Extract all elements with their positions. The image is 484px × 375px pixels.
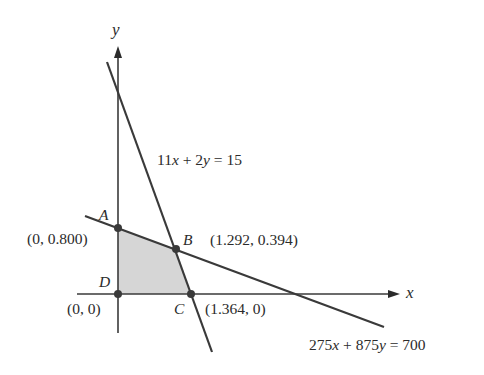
x-axis-arrow-icon (388, 290, 400, 298)
op: + (339, 336, 356, 353)
coef-a: 275 (309, 336, 332, 353)
coef-b: 875 (356, 336, 379, 353)
vertex-b-point (172, 245, 180, 253)
vertex-c-coords: (1.364, 0) (205, 301, 266, 317)
vertex-c-label: C (174, 301, 184, 317)
var-x: x (172, 151, 179, 168)
coef-a: 11 (157, 151, 172, 168)
vertex-b-coords: (1.292, 0.394) (210, 232, 298, 248)
y-axis-label: y (112, 21, 120, 38)
vertex-b-label: B (183, 232, 192, 248)
x-axis-label: x (406, 284, 414, 301)
vertex-c-point (187, 290, 195, 298)
var-y: y (203, 151, 210, 168)
vertex-a-label: A (99, 207, 108, 223)
constraint-label-1: 11x + 2y = 15 (157, 152, 242, 168)
rhs: = 700 (386, 336, 426, 353)
constraint-line-1 (107, 62, 212, 352)
vertex-d-label: D (99, 274, 110, 290)
vertex-d-point (114, 290, 122, 298)
y-axis-arrow-icon (114, 46, 122, 58)
constraint-label-2: 275x + 875y = 700 (309, 337, 426, 353)
op: + (179, 151, 196, 168)
vertex-a-point (114, 224, 122, 232)
rhs: = 15 (210, 151, 242, 168)
vertex-d-coords: (0, 0) (67, 301, 101, 317)
feasible-region-diagram (0, 0, 484, 375)
vertex-a-coords: (0, 0.800) (27, 231, 88, 247)
coef-b: 2 (195, 151, 203, 168)
var-y: y (379, 336, 386, 353)
